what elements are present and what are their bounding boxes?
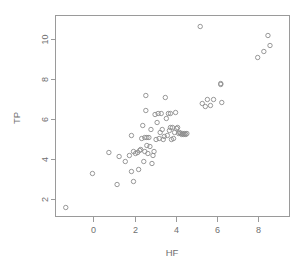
scatter-point [90,171,94,175]
x-tick-label: 0 [91,225,96,235]
scatter-point [115,182,119,186]
scatter-point [211,97,215,101]
scatter-point [129,133,133,137]
scatter-point [205,97,209,101]
scatter-point [136,167,140,171]
scatter-point [159,111,163,115]
scatter-point [164,116,168,120]
scatter-point [107,150,111,154]
y-axis-ticks: 246810 [40,34,56,202]
scatter-point [255,55,259,59]
scatter-point [117,154,121,158]
plot-frame [56,16,290,217]
y-tick-label: 8 [40,77,50,82]
scatter-point [129,169,133,173]
x-axis-title: HF [166,247,179,258]
scatter-point [152,149,156,153]
scatter-point [123,159,127,163]
scatter-point [173,110,177,114]
scatter-point [163,95,167,99]
y-tick-label: 4 [40,157,50,162]
scatter-point [144,108,148,112]
scatter-point [155,120,159,124]
chart-canvas: 02468 246810 HF TP [0,0,307,270]
scatter-point [142,159,146,163]
scatter-point [220,100,224,104]
scatter-point [203,104,207,108]
scatter-point [268,43,272,47]
x-tick-label: 6 [215,225,220,235]
y-axis-title: TP [11,112,22,124]
scatter-point [149,127,153,131]
scatter-plot-figure: 02468 246810 HF TP [0,0,307,270]
x-tick-label: 8 [256,225,261,235]
scatter-point [175,125,179,129]
scatter-point [262,49,266,53]
y-tick-label: 6 [40,117,50,122]
scatter-point [131,179,135,183]
scatter-point [266,33,270,37]
scatter-point [150,161,154,165]
y-tick-label: 2 [40,197,50,202]
scatter-point [144,93,148,97]
x-tick-label: 2 [133,225,138,235]
scatter-point [141,123,145,127]
y-tick-label: 10 [40,34,50,44]
scatter-point [198,24,202,28]
x-axis-ticks: 02468 [91,217,261,235]
scatter-point [208,103,212,107]
scatter-point [127,153,131,157]
data-point-series [64,24,273,209]
x-tick-label: 4 [174,225,179,235]
scatter-point [64,205,68,209]
